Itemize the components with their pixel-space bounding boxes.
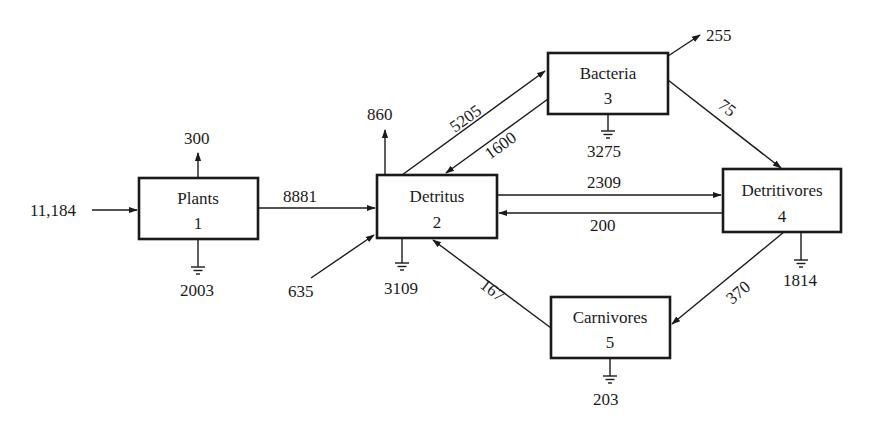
respiration-plants-value: 2003 xyxy=(180,281,214,300)
node-detritivores-number: 4 xyxy=(778,207,787,226)
node-bacteria-name: Bacteria xyxy=(580,64,637,83)
energy-flow-diagram: Plants 1 Detritus 2 Bacteria 3 Detritivo… xyxy=(0,0,875,432)
respiration-detritus-value: 3109 xyxy=(384,279,418,298)
arrow-icon xyxy=(668,35,700,56)
node-bacteria-number: 3 xyxy=(604,89,613,108)
ground-icon xyxy=(191,239,205,274)
ground-icon xyxy=(395,238,409,270)
flow-plants-detritus-value: 8881 xyxy=(283,187,317,206)
arrow-icon xyxy=(672,232,784,324)
respiration-detritus: 3109 xyxy=(384,238,418,298)
node-detritus: Detritus 2 xyxy=(377,175,497,238)
import-plants: 11,184 xyxy=(30,201,137,220)
ground-icon xyxy=(794,232,808,267)
node-plants-name: Plants xyxy=(177,189,219,208)
flow-detritus-bacteria-value: 5205 xyxy=(446,101,485,136)
import-detritus-value: 635 xyxy=(288,282,314,301)
flow-detritus-detritivores-value: 2309 xyxy=(587,173,621,192)
flow-carnivores-detritus-value: 167 xyxy=(477,275,509,306)
respiration-detritivores-value: 1814 xyxy=(783,271,818,290)
flow-detritivores-detritus-value: 200 xyxy=(590,216,616,235)
node-detritivores-name: Detritivores xyxy=(741,181,822,200)
export-bacteria-value: 255 xyxy=(706,26,732,45)
node-detritivores: Detritivores 4 xyxy=(723,169,841,232)
flow-detritivores-carnivores-value: 370 xyxy=(722,277,754,308)
flow-bacteria-detritivores: 75 xyxy=(668,80,781,168)
respiration-carnivores-value: 203 xyxy=(593,390,619,409)
node-carnivores-number: 5 xyxy=(606,333,615,352)
flow-bacteria-detritus-value: 1600 xyxy=(481,128,520,163)
node-plants-number: 1 xyxy=(194,214,203,233)
respiration-detritivores: 1814 xyxy=(783,232,818,290)
node-plants: Plants 1 xyxy=(139,178,258,239)
export-plants: 300 xyxy=(184,129,210,178)
export-detritus: 860 xyxy=(367,105,393,175)
flow-detritus-detritivores: 2309 xyxy=(497,173,721,195)
arrow-icon xyxy=(311,235,374,278)
node-bacteria: Bacteria 3 xyxy=(548,53,668,114)
node-carnivores-name: Carnivores xyxy=(573,308,648,327)
export-plants-value: 300 xyxy=(184,129,210,148)
flow-plants-detritus: 8881 xyxy=(258,187,375,208)
export-bacteria: 255 xyxy=(668,26,732,56)
flow-carnivores-detritus: 167 xyxy=(433,240,551,328)
flow-detritivores-detritus: 200 xyxy=(499,213,723,235)
flow-detritus-bacteria: 5205 xyxy=(402,71,545,175)
node-carnivores: Carnivores 5 xyxy=(551,297,670,358)
import-plants-value: 11,184 xyxy=(30,201,77,220)
flow-detritivores-carnivores: 370 xyxy=(672,232,784,324)
respiration-bacteria-value: 3275 xyxy=(587,142,621,161)
respiration-carnivores: 203 xyxy=(593,358,619,409)
respiration-plants: 2003 xyxy=(180,239,214,300)
ground-icon xyxy=(603,358,617,383)
arrow-icon xyxy=(668,80,781,168)
ground-icon xyxy=(601,114,615,138)
import-detritus: 635 xyxy=(288,235,374,301)
node-detritus-name: Detritus xyxy=(410,187,465,206)
flow-bacteria-detritivores-value: 75 xyxy=(715,95,740,120)
respiration-bacteria: 3275 xyxy=(587,114,621,161)
node-detritus-number: 2 xyxy=(433,213,442,232)
export-detritus-value: 860 xyxy=(367,105,393,124)
